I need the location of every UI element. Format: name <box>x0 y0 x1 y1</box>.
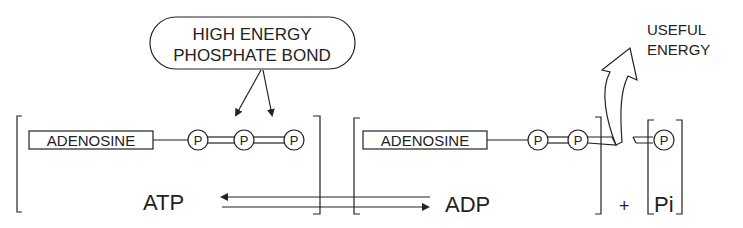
diagram-canvas: HIGH ENERGY PHOSPHATE BOND ADENOSINE P P… <box>0 0 743 228</box>
adp-bracket-right <box>595 117 601 214</box>
callout-line1: HIGH ENERGY <box>192 25 311 44</box>
atp-p2-label: P <box>240 133 249 148</box>
callout-arrow-2 <box>263 70 272 115</box>
energy-line1: USEFUL <box>647 21 706 38</box>
energy-line2: ENERGY <box>647 41 710 58</box>
atp-p3-label: P <box>290 133 299 148</box>
plus-sign: + <box>619 196 630 216</box>
adp-label: ADP <box>445 192 490 217</box>
adp-p1-label: P <box>534 133 543 148</box>
broken-bond-left <box>588 137 616 145</box>
adp-bracket-left <box>354 118 360 214</box>
adp-p2-label: P <box>574 133 583 148</box>
callout-arrow-1 <box>236 70 261 115</box>
atp-bracket-right <box>313 116 320 214</box>
atp-label: ATP <box>143 190 184 215</box>
pi-label: Pi <box>654 192 674 217</box>
pi-bracket-right <box>676 120 682 214</box>
atp-p1-label: P <box>194 133 203 148</box>
atp-adp-diagram: HIGH ENERGY PHOSPHATE BOND ADENOSINE P P… <box>0 0 743 228</box>
atp-bracket-left <box>17 116 22 212</box>
released-p-label: P <box>660 133 669 148</box>
broken-bond-right <box>633 137 653 143</box>
callout-line2: PHOSPHATE BOND <box>173 46 330 65</box>
adp-adenosine-label: ADENOSINE <box>381 132 469 149</box>
atp-adenosine-label: ADENOSINE <box>47 132 135 149</box>
energy-release-arrow <box>602 48 637 145</box>
